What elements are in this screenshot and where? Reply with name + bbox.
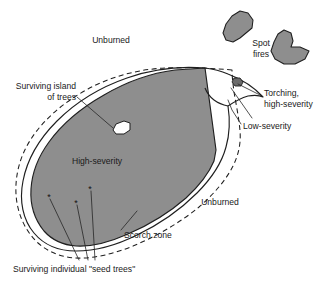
spot-fire-left [223,11,253,42]
torching-spot [232,78,243,86]
label-spot-fires-line2: fires [253,49,269,59]
fire-severity-diagram: * * * Unburned Spot fires Surviving isla… [0,0,328,281]
label-surviving-island-line1: Surviving island [16,81,76,91]
label-unburned-right: Unburned [201,197,239,207]
leader-torching [238,84,260,95]
fire-severity-map-svg: * * * Unburned Spot fires Surviving isla… [0,0,328,281]
label-torching-line1: Torching, [264,88,299,98]
label-seed-trees: Surviving individual "seed trees" [13,264,135,274]
spot-fire-right [271,30,309,64]
label-high-severity: High-severity [72,156,123,166]
label-scorch-zone: Scorch zone [124,230,172,240]
leader-low-severity [228,100,241,124]
seed-tree-marker-3: * [88,184,92,194]
label-unburned-top: Unburned [92,35,130,45]
label-surviving-island-line2: of trees [47,92,76,102]
label-low-severity: Low-severity [243,121,292,131]
label-spot-fires-line1: Spot [252,38,270,48]
label-torching-line2: high-severity [264,99,313,109]
